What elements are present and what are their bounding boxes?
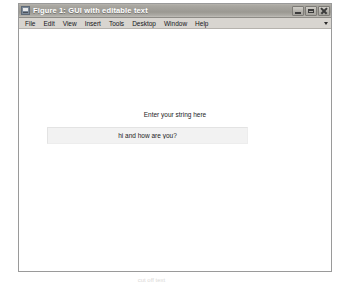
minimize-button[interactable] (292, 6, 304, 16)
prompt-label: Enter your string here (19, 111, 331, 119)
menu-item-file[interactable]: File (21, 19, 39, 28)
menu-item-tools[interactable]: Tools (105, 19, 128, 28)
window-title: Figure 1: GUI with editable text (33, 6, 291, 15)
menu-item-edit[interactable]: Edit (39, 19, 58, 28)
close-button[interactable] (318, 6, 330, 16)
menu-item-desktop[interactable]: Desktop (128, 19, 160, 28)
menu-item-window[interactable]: Window (160, 19, 191, 28)
menu-bar: File Edit View Insert Tools Desktop Wind… (19, 18, 331, 29)
figure-canvas: Enter your string here (19, 29, 331, 271)
menu-item-help[interactable]: Help (191, 19, 212, 28)
bottom-artifact: cut off text (104, 277, 199, 283)
chevron-down-icon[interactable] (322, 20, 329, 27)
string-input[interactable] (47, 127, 248, 144)
title-bar[interactable]: Figure 1: GUI with editable text (19, 4, 331, 18)
maximize-button[interactable] (305, 6, 317, 16)
figure-icon (21, 6, 30, 15)
figure-window: Figure 1: GUI with editable text File Ed… (18, 3, 332, 272)
menu-item-view[interactable]: View (59, 19, 81, 28)
menu-item-insert[interactable]: Insert (81, 19, 105, 28)
